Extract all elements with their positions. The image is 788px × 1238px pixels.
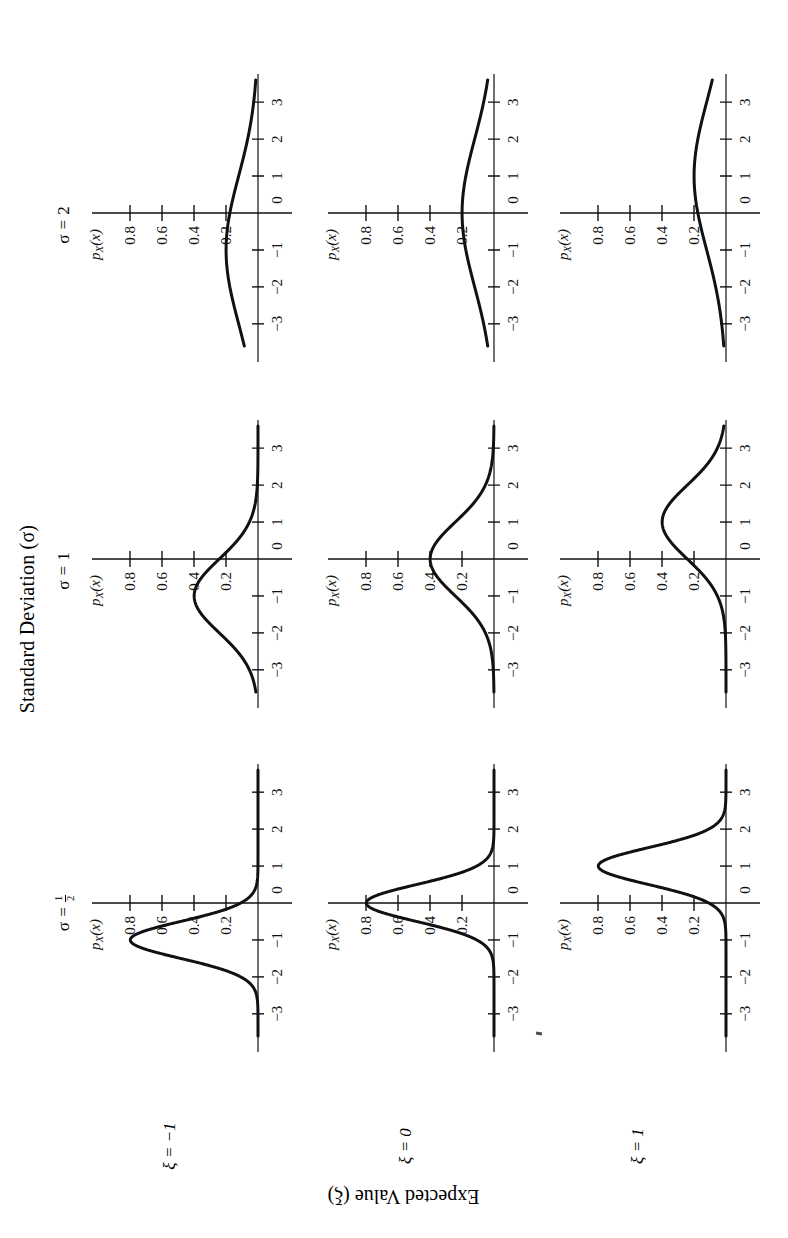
svg-text:pX(x): pX(x) (323, 575, 341, 607)
svg-text:0.2: 0.2 (686, 226, 702, 245)
svg-text:2: 2 (505, 135, 521, 143)
svg-text:1: 1 (269, 862, 285, 870)
svg-text:2: 2 (269, 135, 285, 143)
svg-text:0.6: 0.6 (622, 916, 638, 935)
svg-text:−1: −1 (269, 242, 285, 258)
svg-text:0: 0 (737, 542, 753, 550)
svg-text:3: 3 (269, 98, 285, 106)
sigma-half-numerator: 1 (54, 895, 66, 902)
svg-text:−2: −2 (505, 969, 521, 985)
sigma-2-value: 2 (54, 206, 73, 215)
svg-text:−3: −3 (737, 1006, 753, 1022)
svg-text:pX(x): pX(x) (87, 229, 105, 261)
column-header-sigma-1: σ = 1 (54, 406, 74, 736)
svg-text:0: 0 (737, 196, 753, 204)
svg-text:3: 3 (505, 788, 521, 796)
svg-text:−3: −3 (269, 316, 285, 332)
svg-text:−3: −3 (737, 316, 753, 332)
plot-cell-xi-1-sigma-2: −3−2−112300.20.40.60.8xpX(x) (550, 68, 766, 398)
plot-cell-xi-1-sigma-1: −3−2−112300.20.40.60.8xpX(x) (550, 414, 766, 744)
svg-text:pX(x): pX(x) (555, 919, 573, 951)
svg-text:0.8: 0.8 (358, 916, 374, 935)
svg-text:0.2: 0.2 (218, 916, 234, 935)
row-header-xi-1: ξ = 1 (628, 1098, 648, 1194)
svg-text:pX(x): pX(x) (323, 919, 341, 951)
svg-text:2: 2 (505, 481, 521, 489)
svg-text:0.2: 0.2 (218, 572, 234, 591)
svg-text:−1: −1 (269, 588, 285, 604)
svg-text:0.8: 0.8 (358, 226, 374, 245)
svg-text:3: 3 (505, 444, 521, 452)
svg-text:−2: −2 (737, 279, 753, 295)
svg-text:−2: −2 (737, 969, 753, 985)
svg-text:2: 2 (505, 825, 521, 833)
svg-text:0.8: 0.8 (358, 572, 374, 591)
svg-text:−3: −3 (269, 662, 285, 678)
svg-text:3: 3 (269, 444, 285, 452)
column-header-sigma-2: σ = 2 (54, 60, 74, 390)
xi-1-value: 1 (628, 1128, 647, 1137)
svg-text:2: 2 (269, 481, 285, 489)
gaussian-curve-svg: −3−2−112300.20.40.60.8xpX(x) (318, 414, 574, 744)
svg-text:−3: −3 (505, 316, 521, 332)
gaussian-curve-svg: −3−2−112300.20.40.60.8xpX(x) (82, 414, 338, 744)
svg-text:−1: −1 (269, 932, 285, 948)
svg-text:pX(x): pX(x) (555, 575, 573, 607)
plot-cell-xi-0-sigma-2: −3−2−112300.20.40.60.8xpX(x) (318, 68, 534, 398)
svg-text:0.4: 0.4 (654, 226, 670, 245)
figure-top-title: Standard Deviation (σ) (16, 0, 39, 1238)
svg-text:0: 0 (269, 196, 285, 204)
svg-text:0.6: 0.6 (390, 226, 406, 245)
svg-text:0: 0 (269, 886, 285, 894)
svg-text:0: 0 (737, 886, 753, 894)
svg-text:−2: −2 (269, 279, 285, 295)
svg-text:1: 1 (505, 862, 521, 870)
xi-minus-1-value: −1 (160, 1122, 179, 1142)
svg-text:0.4: 0.4 (654, 572, 670, 591)
svg-text:−3: −3 (737, 662, 753, 678)
rotated-figure-canvas: Standard Deviation (σ) Expected Value (ξ… (0, 0, 788, 1238)
svg-text:0.2: 0.2 (686, 916, 702, 935)
row-header-xi-0: ξ = 0 (396, 1098, 416, 1194)
plot-cell-xi-0-sigma-1: −3−2−112300.20.40.60.8xpX(x) (318, 414, 534, 744)
svg-text:−3: −3 (505, 662, 521, 678)
gaussian-curve-svg: −3−2−112300.20.40.60.8xpX(x) (318, 758, 574, 1088)
svg-text:pX(x): pX(x) (87, 919, 105, 951)
svg-text:0.6: 0.6 (622, 226, 638, 245)
gaussian-curve-svg: −3−2−112300.20.40.60.8xpX(x) (550, 68, 788, 398)
sigma-1-value: 1 (54, 552, 73, 561)
svg-text:0.6: 0.6 (154, 572, 170, 591)
svg-text:3: 3 (737, 98, 753, 106)
sigma-half-denominator: 2 (66, 895, 77, 902)
svg-text:0.2: 0.2 (454, 572, 470, 591)
svg-text:0.4: 0.4 (186, 226, 202, 245)
svg-text:1: 1 (737, 518, 753, 526)
svg-text:−1: −1 (505, 242, 521, 258)
svg-text:0.8: 0.8 (590, 572, 606, 591)
svg-text:2: 2 (269, 825, 285, 833)
svg-text:2: 2 (737, 135, 753, 143)
svg-text:1: 1 (505, 172, 521, 180)
svg-text:−2: −2 (737, 625, 753, 641)
svg-text:3: 3 (737, 444, 753, 452)
svg-text:−1: −1 (737, 242, 753, 258)
svg-text:−2: −2 (269, 625, 285, 641)
svg-text:−2: −2 (269, 969, 285, 985)
svg-text:1: 1 (269, 518, 285, 526)
scan-speck (536, 1032, 542, 1036)
svg-text:1: 1 (269, 172, 285, 180)
svg-text:2: 2 (737, 481, 753, 489)
svg-text:0.6: 0.6 (622, 572, 638, 591)
figure: Standard Deviation (σ) Expected Value (ξ… (0, 0, 788, 1238)
plot-cell-xi-minus1-sigma-1: −3−2−112300.20.40.60.8xpX(x) (82, 414, 298, 744)
gaussian-curve-svg: −3−2−112300.20.40.60.8xpX(x) (82, 68, 338, 398)
svg-text:1: 1 (505, 518, 521, 526)
svg-text:−1: −1 (737, 588, 753, 604)
svg-text:0: 0 (505, 886, 521, 894)
svg-text:pX(x): pX(x) (323, 229, 341, 261)
svg-text:−1: −1 (505, 588, 521, 604)
plot-cell-xi-1-sigma-half: −3−2−112300.20.40.60.8xpX(x) (550, 758, 766, 1088)
svg-text:0.6: 0.6 (390, 572, 406, 591)
svg-text:3: 3 (737, 788, 753, 796)
svg-text:0.2: 0.2 (686, 572, 702, 591)
